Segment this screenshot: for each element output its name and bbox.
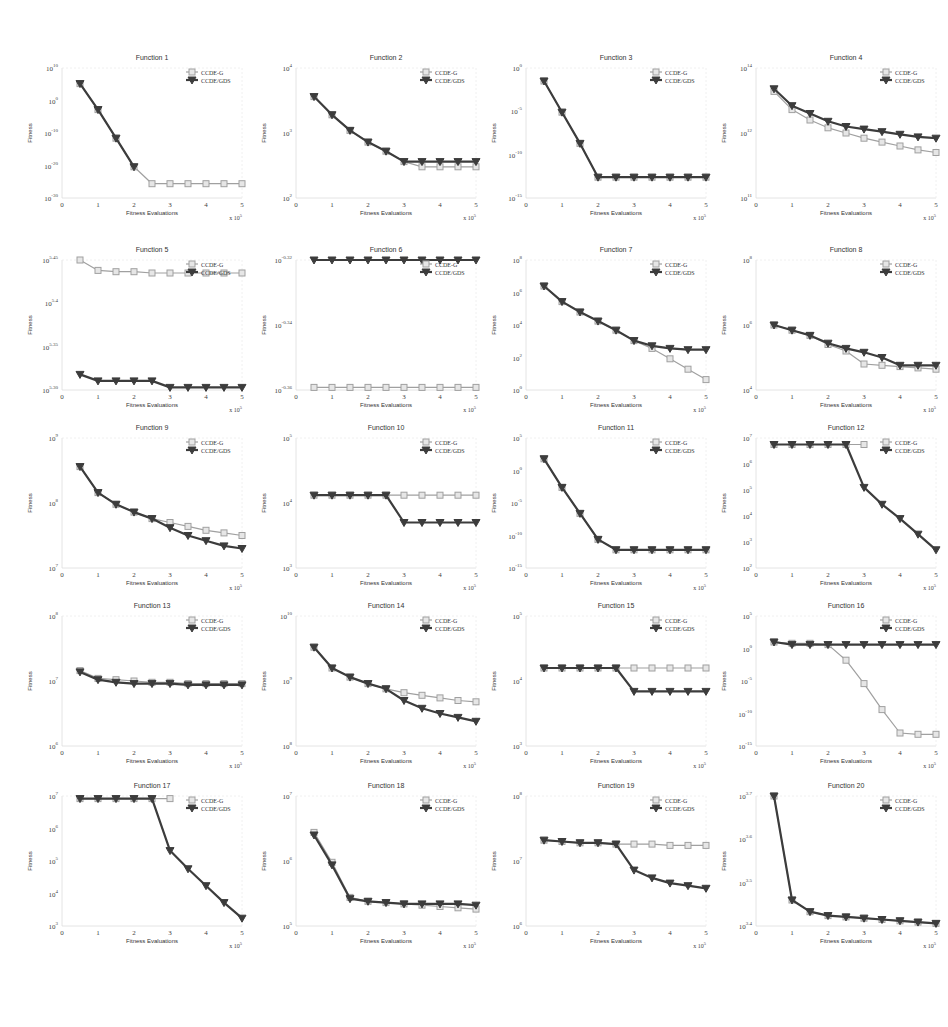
legend: CCDE-GCCDE/GDS — [880, 797, 925, 812]
legend-label: CCDE-G — [435, 440, 458, 446]
x-tick-label: 3 — [168, 749, 172, 757]
x-tick-label: 2 — [132, 571, 136, 579]
x-tick-label: 0 — [754, 571, 758, 579]
subplot-title: Function 15 — [598, 602, 635, 609]
series-ccde-g — [771, 639, 939, 737]
legend-label: CCDE-G — [435, 798, 458, 804]
x-multiplier: x 105 — [693, 583, 707, 591]
x-tick-label: 5 — [704, 571, 708, 579]
legend-label: CCDE-G — [895, 70, 918, 76]
x-axis-label: Fitness Evaluations — [590, 580, 642, 586]
y-tick-label: 103 — [283, 563, 293, 573]
legend-label: CCDE/GDS — [895, 806, 925, 812]
x-tick-label: 4 — [438, 749, 442, 757]
x-axis-label: Fitness Evaluations — [820, 210, 872, 216]
legend-label: CCDE/GDS — [435, 270, 465, 276]
x-tick-label: 5 — [704, 749, 708, 757]
y-axis-label: Fitness — [491, 671, 497, 690]
x-axis-label: Fitness Evaluations — [360, 210, 412, 216]
x-axis-label: Fitness Evaluations — [126, 938, 178, 944]
y-tick-label: 108 — [49, 611, 59, 621]
y-tick-label: 100 — [49, 96, 59, 106]
x-tick-label: 3 — [632, 201, 636, 209]
series-ccde-g — [771, 793, 939, 926]
x-axis-label: Fitness Evaluations — [360, 402, 412, 408]
subplot-function-14: Function 141010109108012345Fitness Evalu… — [252, 596, 488, 776]
x-tick-label: 1 — [790, 201, 794, 209]
legend: CCDE-GCCDE/GDS — [186, 439, 231, 454]
y-tick-label: 107 — [49, 676, 59, 686]
x-tick-label: 1 — [330, 393, 334, 401]
x-tick-label: 3 — [402, 201, 406, 209]
legend-label: CCDE/GDS — [665, 78, 695, 84]
x-tick-label: 5 — [704, 201, 708, 209]
series-ccde-gds — [76, 464, 246, 553]
y-tick-label: 105 — [283, 433, 293, 443]
subplot-title: Function 10 — [368, 424, 405, 431]
y-tick-label: 109 — [283, 676, 293, 686]
x-multiplier: x 105 — [463, 405, 477, 413]
x-tick-label: 4 — [204, 201, 208, 209]
x-tick-label: 4 — [204, 571, 208, 579]
x-tick-label: 3 — [632, 749, 636, 757]
y-tick-label: 100 — [513, 466, 523, 476]
legend: CCDE-GCCDE/GDS — [186, 617, 231, 632]
legend-label: CCDE/GDS — [201, 270, 231, 276]
y-tick-label: 10-5 — [511, 498, 523, 508]
x-tick-label: 4 — [438, 393, 442, 401]
y-tick-label: 10-20 — [44, 161, 58, 171]
subplot-function-7: Function 7108106104102100012345Fitness E… — [482, 240, 718, 420]
series-ccde-gds — [540, 78, 710, 181]
x-multiplier: x 105 — [463, 761, 477, 769]
x-tick-label: 1 — [96, 571, 100, 579]
x-axis-label: Fitness Evaluations — [820, 580, 872, 586]
x-tick-label: 2 — [826, 929, 830, 937]
x-tick-label: 4 — [668, 929, 672, 937]
x-tick-label: 0 — [60, 929, 64, 937]
y-axis-label: Fitness — [261, 493, 267, 512]
x-tick-label: 3 — [862, 393, 866, 401]
x-tick-label: 2 — [366, 393, 370, 401]
legend: CCDE-GCCDE/GDS — [880, 439, 925, 454]
y-tick-label: 104 — [49, 889, 59, 899]
y-axis-label: Fitness — [261, 851, 267, 870]
x-tick-label: 2 — [596, 393, 600, 401]
series-ccde-g — [77, 464, 245, 539]
x-tick-label: 2 — [366, 749, 370, 757]
legend-label: CCDE/GDS — [201, 806, 231, 812]
x-tick-label: 1 — [790, 749, 794, 757]
y-tick-label: 103 — [743, 537, 753, 547]
x-tick-label: 4 — [668, 201, 672, 209]
x-tick-label: 2 — [132, 201, 136, 209]
x-tick-label: 3 — [862, 749, 866, 757]
y-tick-label: 104 — [513, 676, 523, 686]
x-tick-label: 3 — [168, 393, 172, 401]
x-multiplier: x 105 — [923, 583, 937, 591]
x-tick-label: 2 — [596, 571, 600, 579]
y-axis-label: Fitness — [721, 123, 727, 142]
x-tick-label: 0 — [60, 393, 64, 401]
x-multiplier: x 105 — [693, 213, 707, 221]
subplot-title: Function 6 — [370, 246, 403, 253]
x-tick-label: 1 — [330, 571, 334, 579]
y-tick-label: 102 — [283, 193, 293, 203]
x-tick-label: 0 — [60, 749, 64, 757]
y-tick-label: 1010 — [280, 611, 293, 621]
x-multiplier: x 105 — [693, 761, 707, 769]
y-axis-label: Fitness — [261, 671, 267, 690]
x-tick-label: 4 — [668, 571, 672, 579]
y-tick-label: 105 — [513, 433, 523, 443]
y-tick-label: 10-0.34 — [275, 320, 293, 330]
legend-label: CCDE-G — [665, 440, 688, 446]
legend-label: CCDE/GDS — [201, 626, 231, 632]
x-tick-label: 0 — [524, 201, 528, 209]
y-tick-label: 103.6 — [739, 834, 753, 844]
legend-label: CCDE/GDS — [435, 448, 465, 454]
legend-label: CCDE/GDS — [665, 448, 695, 454]
legend-label: CCDE-G — [435, 70, 458, 76]
x-tick-label: 4 — [898, 929, 902, 937]
x-tick-label: 3 — [862, 201, 866, 209]
x-tick-label: 2 — [826, 749, 830, 757]
legend-label: CCDE/GDS — [895, 270, 925, 276]
y-tick-label: 105.30 — [42, 385, 58, 395]
